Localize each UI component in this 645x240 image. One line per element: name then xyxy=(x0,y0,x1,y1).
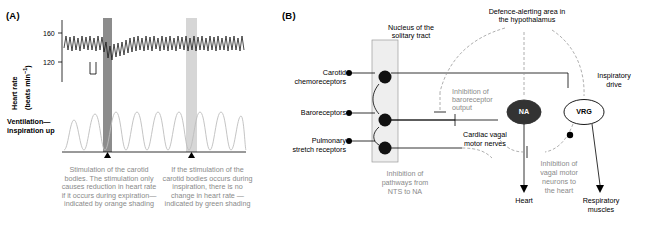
nts-neuron-pulmonary xyxy=(379,142,392,155)
respiratory-label-line2: muscles xyxy=(576,206,626,215)
inspiratory-drive-line2: drive xyxy=(586,81,642,90)
heart-label: Heart xyxy=(506,197,542,206)
pulmonary-label-line2: stretch receptors xyxy=(272,146,346,155)
respiratory-arrowhead xyxy=(596,185,604,193)
cardiac-vagal-line2: motor nerves xyxy=(452,140,518,149)
pulmonary-terminal-dot xyxy=(346,138,352,144)
inhibition-nts-line3: NTS to NA xyxy=(370,188,440,197)
carotid-terminal-dot xyxy=(346,70,352,76)
baroreceptor-terminal-dot xyxy=(346,110,352,116)
pulmonary-to-vagal-dashed xyxy=(462,148,492,158)
nts-title-line2: solitary tract xyxy=(375,32,447,41)
na-label: NA xyxy=(509,108,539,117)
inhibition-vagal-line4: the heart xyxy=(531,187,587,196)
hypothalamus-label-line2: the hypothalamus xyxy=(468,16,586,25)
nts-neuron-carotid xyxy=(379,71,392,84)
baroreceptors-label: Baroreceptors xyxy=(272,109,346,118)
panel-b-graphics xyxy=(0,0,645,240)
inhibition-baro-line3: output xyxy=(452,104,514,113)
figure-root: (A) Heart rate (beats min−1) 160 120 Ven… xyxy=(0,0,645,240)
interneuron-dot xyxy=(567,132,573,138)
vrg-label: VRG xyxy=(569,108,599,117)
carotid-label-line2: chemoreceptors xyxy=(272,78,346,87)
vrg-to-vagal-inhibition-dashed xyxy=(545,124,573,152)
vrg-to-respiratory-line xyxy=(592,124,600,185)
nts-neuron-baro xyxy=(379,114,392,127)
hypothalamus-to-nts-dashed xyxy=(440,28,505,92)
heart-arrowhead xyxy=(520,185,528,193)
